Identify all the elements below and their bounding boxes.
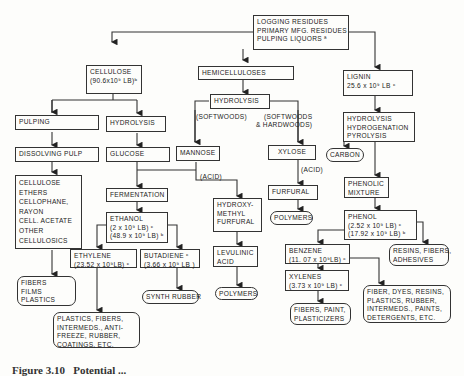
node-lignin: LIGNIN 25.6 x 10⁹ LB ᶜ (343, 70, 413, 96)
node-plastics-fibers: PLASTICS, FIBERS, INTERMEDS., ANTI- FREE… (53, 312, 140, 348)
node-carbon: CARBON (326, 148, 364, 162)
node-xylenes: XYLENES (3.73 x 10⁹ LB) ᶜ (285, 270, 349, 291)
label-acid-mannose: (ACID) (200, 173, 222, 180)
node-fibers-films: FIBERS FILMS PLASTICS (17, 276, 76, 306)
edge-ethanol-butadiene (167, 225, 177, 247)
node-hydrolysis-cellulose: HYDROLYSIS (106, 116, 166, 132)
node-phenolic-mixture: PHENOLIC MIXTURE (344, 177, 389, 198)
node-fibers-paint: FIBERS, PAINT, PLASTICIZERS (290, 303, 351, 325)
edge-source-cellulose (112, 32, 253, 42)
node-mannose: MANNOSE (176, 146, 220, 161)
node-lignin-process: HYDROLYSIS HYDROGENATION PYROLYSIS (343, 112, 415, 142)
node-resins: RESINS, FIBERS, ADHESIVES (389, 244, 449, 266)
node-cellulose: CELLULOSE (90.6x10⁹ LB)ᵇ (86, 65, 142, 94)
label-softwoods-hardwoods: (SOFTWOODS & HARDWOODS) (256, 113, 312, 129)
label-acid-xylose: (ACID) (301, 166, 323, 173)
node-pulping: PULPING (15, 115, 99, 130)
node-hemicelluloses: HEMICELLULOSES (198, 66, 294, 80)
label-softwoods: (SOFTWOODS) (196, 113, 247, 120)
node-fiber-dyes: FIBER, DYES, RESINS, PLASTICS, RUBBER, I… (363, 285, 451, 323)
node-hydrolysis-hemi: HYDROLYSIS (210, 94, 270, 109)
node-butadiene: BUTADIENE ᶜ (3.66 x 10⁹ LB ) (140, 249, 200, 268)
node-furfural: FURFURAL (268, 185, 318, 200)
node-synth-rubber: SYNTH RUBBER (142, 290, 199, 304)
edge-cellulose-split (52, 94, 137, 113)
node-hmf: HYDROXY- METHYL FURFURAL (213, 198, 262, 232)
node-phenol: PHENOL (2.52 x 10⁹ LB) ᶜ (17.92 x 10⁹ LB… (344, 210, 417, 240)
node-polymers-furfural: POLYMERS (270, 211, 313, 225)
edge-benzene-fiberdyes (350, 258, 379, 283)
node-fermentation: FERMENTATION (106, 188, 168, 202)
node-source: LOGGING RESIDUES PRIMARY MFG. RESIDUES P… (253, 15, 349, 50)
node-xylose: XYLOSE (268, 145, 316, 160)
node-benzene: BENZENE (11. 07 x 10⁹LB) ᶜ (285, 244, 350, 264)
node-polymers-levulinic: POLYMERS (215, 287, 258, 300)
node-levulinic-acid: LEVULINIC ACID (213, 246, 258, 267)
node-dissolving-pulp: DISSOLVING PULP (15, 147, 99, 162)
node-ethanol: ETHANOL (2 x 10⁹ LB) ᶜ (48.9 x 10⁹ LB) ᵇ (106, 212, 168, 243)
node-ethylene: ETHYLENE (23.52 x 10⁹LB) ᶜ (70, 249, 137, 268)
node-glucose: GLUCOSE (106, 147, 170, 162)
figure-caption: Figure 3.10 Potential ... (12, 364, 126, 376)
node-cellulosics: CELLULOSE ETHERS CELLOPHANE, RAYON CELL.… (15, 175, 82, 249)
edge-phenol-benzene (318, 230, 345, 242)
